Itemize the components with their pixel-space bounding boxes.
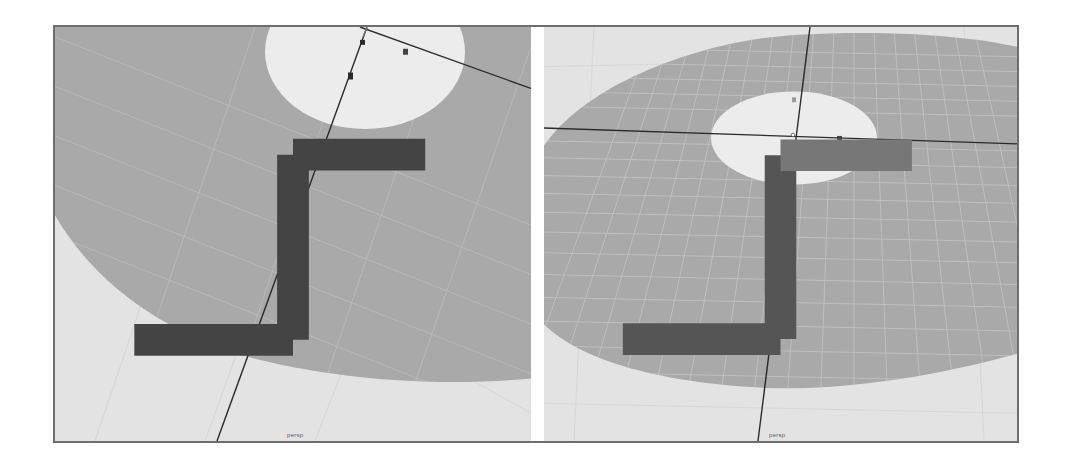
camera-label: persp [287, 432, 304, 438]
viewport-divider[interactable] [531, 27, 544, 441]
viewport-layout: persp [53, 25, 1019, 443]
perspective-viewport-right[interactable]: persp [544, 27, 1017, 441]
perspective-viewport-left[interactable]: persp [55, 27, 531, 441]
camera-label: persp [769, 432, 786, 438]
axis-gizmo-icon [544, 27, 1017, 441]
axis-gizmo-icon [55, 27, 531, 441]
